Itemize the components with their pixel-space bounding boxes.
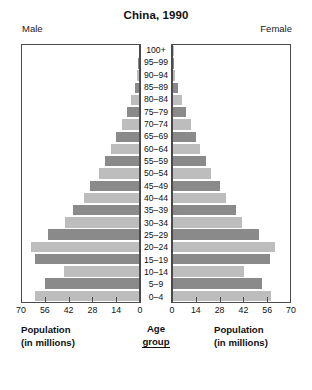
- bar-row: [173, 229, 290, 241]
- bar-row: [22, 253, 139, 265]
- tick-mark: [116, 297, 117, 302]
- age-group-label: 5–9: [141, 278, 171, 290]
- tick-mark: [220, 297, 221, 302]
- bar-row: [173, 143, 290, 155]
- bar-row: [22, 204, 139, 216]
- age-group-label: 20–24: [141, 241, 171, 253]
- axis-tick-label: 70: [286, 305, 296, 315]
- bar-row: [22, 216, 139, 228]
- bar-row: [22, 155, 139, 167]
- tick-mark: [196, 297, 197, 302]
- male-bar-rows: [22, 45, 139, 302]
- bar-row: [173, 94, 290, 106]
- axis-tick-label: 42: [64, 305, 74, 315]
- age-group-label: 65–69: [141, 130, 171, 142]
- bar-row: [173, 131, 290, 143]
- bar-female-95-99: [173, 58, 174, 68]
- bar-male-15-19: [35, 254, 139, 264]
- age-axis-title-line1: Age: [128, 322, 184, 335]
- bar-row: [173, 241, 290, 253]
- age-axis-title-line2: group: [128, 335, 184, 348]
- tick-mark: [69, 297, 70, 302]
- bar-female-60-64: [173, 144, 200, 154]
- bar-female-35-39: [173, 205, 236, 215]
- axis-tick-label: 42: [238, 305, 248, 315]
- bar-male-30-34: [65, 217, 139, 227]
- bar-row: [22, 143, 139, 155]
- axis-tick-label: 0: [138, 305, 143, 315]
- bar-male-5-9: [45, 278, 139, 288]
- bar-row: [173, 106, 290, 118]
- tick-mark: [267, 297, 268, 302]
- bar-row: [173, 180, 290, 192]
- bar-male-95-99: [138, 58, 139, 68]
- axis-tick-label: 70: [16, 305, 26, 315]
- bar-male-40-44: [84, 193, 139, 203]
- bar-female-5-9: [173, 278, 262, 288]
- age-group-label: 80–84: [141, 93, 171, 105]
- bar-row: [173, 192, 290, 204]
- bar-row: [22, 265, 139, 277]
- bar-row: [173, 82, 290, 94]
- bar-female-75-79: [173, 107, 186, 117]
- bar-row: [173, 204, 290, 216]
- bar-row: [22, 106, 139, 118]
- bar-female-30-34: [173, 217, 242, 227]
- bar-row: [22, 277, 139, 289]
- bar-row: [22, 69, 139, 81]
- bar-row: [173, 45, 290, 57]
- age-axis-title-line2-text: group: [142, 336, 169, 348]
- bar-row: [173, 167, 290, 179]
- bar-row: [22, 57, 139, 69]
- bar-female-70-74: [173, 119, 191, 129]
- bar-female-40-44: [173, 193, 226, 203]
- axis-tick-label: 0: [170, 305, 175, 315]
- bar-male-10-14: [64, 266, 139, 276]
- age-group-label: 70–74: [141, 118, 171, 130]
- bar-male-80-84: [131, 95, 139, 105]
- bar-female-15-19: [173, 254, 270, 264]
- bar-female-25-29: [173, 229, 259, 239]
- bar-female-55-59: [173, 156, 206, 166]
- age-group-label: 95–99: [141, 56, 171, 68]
- bar-row: [173, 69, 290, 81]
- bar-female-80-84: [173, 95, 182, 105]
- age-group-axis-title: Age group: [128, 322, 184, 348]
- bar-female-85-89: [173, 83, 178, 93]
- male-axis-tick-labels: 01428425670: [21, 305, 140, 318]
- age-group-label: 35–39: [141, 204, 171, 216]
- bar-row: [173, 277, 290, 289]
- tick-mark: [92, 297, 93, 302]
- female-axis-title-line2: (in millions): [214, 337, 268, 350]
- male-header-label: Male: [22, 23, 43, 34]
- tick-mark: [243, 297, 244, 302]
- age-group-label: 25–29: [141, 229, 171, 241]
- bar-female-90-94: [173, 70, 175, 80]
- bar-male-25-29: [48, 229, 139, 239]
- bar-female-10-14: [173, 266, 244, 276]
- bar-female-20-24: [173, 242, 275, 252]
- male-axis-title-line2: (in millions): [21, 337, 75, 350]
- axis-tick-label: 14: [111, 305, 121, 315]
- bar-male-35-39: [73, 205, 139, 215]
- tick-mark: [45, 297, 46, 302]
- population-pyramid-chart: China, 1990 Male Female 100+95–9990–9485…: [0, 0, 312, 390]
- axis-tick-label: 56: [40, 305, 50, 315]
- bar-row: [22, 167, 139, 179]
- female-header-label: Female: [260, 23, 292, 34]
- bar-row: [173, 155, 290, 167]
- age-group-label: 0–4: [141, 291, 171, 303]
- age-group-label: 40–44: [141, 192, 171, 204]
- bar-row: [173, 253, 290, 265]
- bar-row: [22, 118, 139, 130]
- bar-male-45-49: [90, 181, 139, 191]
- chart-title: China, 1990: [0, 9, 312, 21]
- age-group-label: 55–59: [141, 155, 171, 167]
- bar-male-60-64: [111, 144, 139, 154]
- axis-tick-label: 28: [215, 305, 225, 315]
- female-axis-title: Population (in millions): [214, 324, 268, 349]
- bar-male-90-94: [137, 70, 139, 80]
- age-group-label: 45–49: [141, 180, 171, 192]
- bar-row: [173, 265, 290, 277]
- female-plot-panel: [172, 44, 291, 303]
